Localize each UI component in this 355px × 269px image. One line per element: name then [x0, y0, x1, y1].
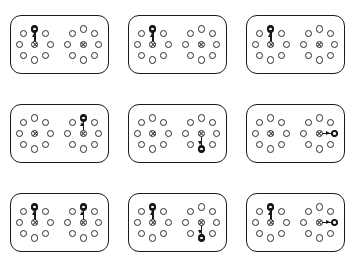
- ring-node-1: [31, 114, 38, 121]
- cluster-node-group: [297, 201, 341, 245]
- cluster-left: [11, 194, 60, 251]
- ring-node-8: [138, 119, 145, 126]
- panel-3: [246, 15, 345, 74]
- ring-node-3: [47, 41, 54, 48]
- center-node: [80, 130, 87, 137]
- arrow-head-up-icon: [268, 211, 272, 215]
- ring-node-7: [134, 41, 141, 48]
- ring-node-8: [20, 208, 27, 215]
- ring-node-4: [160, 230, 167, 237]
- ring-node-2: [278, 30, 285, 37]
- cluster-pair: [11, 16, 108, 73]
- center-node: [149, 130, 156, 137]
- ring-node-6: [138, 141, 145, 148]
- cluster-right: [177, 16, 226, 73]
- center-node: [267, 219, 274, 226]
- cluster-right: [295, 105, 344, 162]
- cluster-node-group: [131, 112, 175, 156]
- ring-node-4: [327, 52, 334, 59]
- ring-node-1: [267, 114, 274, 121]
- ring-node-7: [64, 41, 71, 48]
- center-node: [267, 41, 274, 48]
- ring-node-4: [278, 141, 285, 148]
- cluster-node-group: [249, 23, 293, 67]
- center-node: [80, 41, 87, 48]
- target-node: [267, 25, 274, 32]
- center-node: [149, 41, 156, 48]
- cluster-right: [295, 194, 344, 251]
- ring-node-4: [160, 141, 167, 148]
- ring-node-2: [42, 119, 49, 126]
- ring-node-5: [316, 56, 323, 63]
- ring-node-7: [182, 219, 189, 226]
- cluster-right: [177, 105, 226, 162]
- ring-node-4: [42, 52, 49, 59]
- ring-node-2: [209, 119, 216, 126]
- panel-8: [128, 193, 227, 252]
- panel-7: [10, 193, 109, 252]
- ring-node-3: [165, 41, 172, 48]
- center-node: [267, 130, 274, 137]
- ring-node-2: [160, 208, 167, 215]
- panel-4: [10, 104, 109, 163]
- ring-node-4: [42, 141, 49, 148]
- cluster-pair: [247, 194, 344, 251]
- cluster-left: [129, 105, 178, 162]
- cluster-pair: [247, 105, 344, 162]
- cluster-left: [129, 16, 178, 73]
- cluster-node-group: [13, 112, 57, 156]
- ring-node-2: [327, 119, 334, 126]
- ring-node-3: [95, 219, 102, 226]
- cluster-node-group: [61, 112, 105, 156]
- arrow-head-up-icon: [268, 33, 272, 37]
- panel-cell: [236, 0, 354, 89]
- center-node: [149, 219, 156, 226]
- center-node: [31, 219, 38, 226]
- cluster-node-group: [61, 201, 105, 245]
- panel-2: [128, 15, 227, 74]
- ring-node-3: [47, 219, 54, 226]
- target-node: [31, 203, 38, 210]
- ring-node-6: [69, 230, 76, 237]
- arrow-head-up-icon: [150, 33, 154, 37]
- cluster-node-group: [179, 112, 223, 156]
- ring-node-8: [69, 30, 76, 37]
- ring-node-7: [300, 41, 307, 48]
- ring-node-8: [305, 119, 312, 126]
- target-node: [198, 234, 205, 241]
- ring-node-2: [278, 208, 285, 215]
- ring-node-4: [327, 141, 334, 148]
- ring-node-3: [47, 130, 54, 137]
- center-node: [316, 41, 323, 48]
- center-node: [80, 219, 87, 226]
- ring-node-7: [64, 130, 71, 137]
- ring-node-5: [80, 234, 87, 241]
- ring-node-4: [278, 52, 285, 59]
- ring-node-4: [327, 230, 334, 237]
- cluster-node-group: [13, 23, 57, 67]
- ring-node-7: [182, 130, 189, 137]
- ring-node-6: [138, 230, 145, 237]
- ring-node-6: [256, 230, 263, 237]
- cluster-pair: [129, 16, 226, 73]
- arrow-head-up-icon: [150, 211, 154, 215]
- ring-node-3: [283, 130, 290, 137]
- center-node: [316, 219, 323, 226]
- ring-node-3: [165, 219, 172, 226]
- ring-node-3: [213, 41, 220, 48]
- cluster-node-group: [179, 23, 223, 67]
- ring-node-4: [91, 52, 98, 59]
- ring-node-5: [31, 234, 38, 241]
- panel-cell: [0, 178, 118, 267]
- panel-5: [128, 104, 227, 163]
- ring-node-1: [149, 114, 156, 121]
- arrow-head-right-icon: [326, 131, 330, 135]
- cluster-node-group: [61, 23, 105, 67]
- ring-node-2: [327, 208, 334, 215]
- panel-cell: [118, 178, 236, 267]
- cluster-node-group: [297, 112, 341, 156]
- ring-node-6: [305, 141, 312, 148]
- ring-node-5: [149, 145, 156, 152]
- ring-node-1: [198, 203, 205, 210]
- target-node: [149, 25, 156, 32]
